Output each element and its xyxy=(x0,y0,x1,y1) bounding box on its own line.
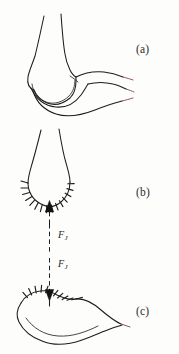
force-label-lower: FJ xyxy=(58,258,68,271)
force-subscript-lower: J xyxy=(64,263,68,271)
force-subscript-upper: J xyxy=(64,234,68,242)
panel-c-bone-body xyxy=(17,303,122,344)
panel-c-articular-surface-tip xyxy=(121,324,130,327)
figure-drawing-canvas: .ln { fill:none; stroke:#1d1d1d; stroke-… xyxy=(0,0,179,354)
panel-c-inner-contour xyxy=(26,318,98,336)
lower-bone-inferior-border-tip xyxy=(122,98,133,101)
panel-b-drawing xyxy=(21,129,74,224)
panel-label-a: (a) xyxy=(136,43,149,55)
lower-bone-upper-line xyxy=(76,72,123,77)
upper-bone-right-cortex xyxy=(61,14,76,77)
panel-label-c: (c) xyxy=(136,305,149,317)
lower-bone-inferior-border xyxy=(33,91,122,116)
panel-b-shaft-right xyxy=(59,129,70,182)
lower-bone-middle-line xyxy=(88,83,126,90)
panel-label-b: (b) xyxy=(136,186,150,198)
panel-a-drawing xyxy=(28,14,134,116)
lower-bone-middle-line-tip xyxy=(126,89,134,92)
panel-c-drawing xyxy=(17,285,130,344)
panel-c-force-arrowhead xyxy=(45,290,53,302)
panel-c-articular-surface xyxy=(21,291,121,324)
joint-force-figure: .ln { fill:none; stroke:#1d1d1d; stroke-… xyxy=(0,0,179,354)
force-label-upper: FJ xyxy=(58,229,68,242)
panel-b-shaft-left xyxy=(28,130,41,183)
upper-bone-left-cortex xyxy=(28,16,44,90)
lower-bone-upper-line-tip xyxy=(123,77,133,80)
